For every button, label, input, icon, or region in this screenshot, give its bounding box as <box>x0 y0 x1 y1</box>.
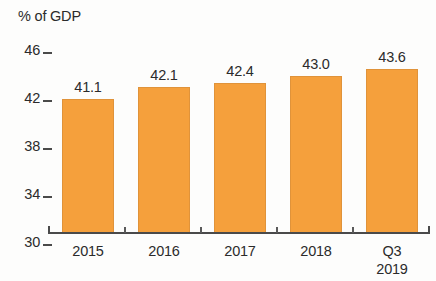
y-axis-tick: 38 <box>0 138 55 154</box>
bar-value-label: 41.1 <box>50 79 126 95</box>
x-axis-category-line: 2016 <box>148 243 179 259</box>
chart-axis-unit-title: % of GDP <box>18 8 81 24</box>
bar-chart-figure: % of GDP 46 42 38 34 30 41.1 42.1 <box>0 0 436 281</box>
y-axis-tick-dash <box>43 100 52 102</box>
y-axis: 46 42 38 34 30 <box>0 40 55 240</box>
x-axis-tick <box>276 227 278 233</box>
bar-rect[interactable] <box>62 99 114 233</box>
plot-area: 41.1 42.1 42.4 43.0 43.6 <box>55 40 430 233</box>
x-axis-category-label-q3-2019: Q3 2019 <box>349 242 435 278</box>
y-axis-tick: 46 <box>0 42 55 58</box>
y-axis-tick-label: 42 <box>24 90 40 106</box>
bar-rect[interactable] <box>290 76 342 233</box>
y-axis-tick-label: 34 <box>24 186 40 202</box>
x-axis-right-cap <box>428 226 430 233</box>
x-axis-category-line: Q3 <box>383 243 402 259</box>
y-axis-tick-dash <box>43 52 52 54</box>
y-axis-tick: 42 <box>0 90 55 106</box>
x-axis-category-line: 2019 <box>349 260 435 278</box>
y-axis-tick-dash <box>43 148 52 150</box>
x-axis-tick <box>352 227 354 233</box>
x-axis-tick <box>200 227 202 233</box>
bar-value-label: 43.0 <box>278 56 354 72</box>
x-axis-category-line: 2017 <box>224 243 255 259</box>
bar-rect[interactable] <box>366 69 418 233</box>
x-axis-category-label-2015: 2015 <box>45 242 131 260</box>
bar-value-label: 42.4 <box>202 63 278 79</box>
x-axis-line <box>48 232 430 234</box>
y-axis-tick-label: 30 <box>24 234 40 250</box>
y-axis-tick-dash <box>43 196 52 198</box>
x-axis-tick <box>124 227 126 233</box>
bar-value-label: 42.1 <box>126 67 202 83</box>
y-axis-tick: 34 <box>0 186 55 202</box>
bar-rect[interactable] <box>138 87 190 233</box>
x-axis-category-label-2016: 2016 <box>121 242 207 260</box>
x-axis-category-label-2017: 2017 <box>197 242 283 260</box>
bar-rect[interactable] <box>214 83 266 233</box>
bar-value-label: 43.6 <box>354 49 430 65</box>
y-axis-tick-label: 38 <box>24 138 40 154</box>
x-axis-category-line: 2015 <box>72 243 103 259</box>
y-axis-tick-label: 46 <box>24 42 40 58</box>
x-axis-category-line: 2018 <box>300 243 331 259</box>
x-axis-category-label-2018: 2018 <box>273 242 359 260</box>
